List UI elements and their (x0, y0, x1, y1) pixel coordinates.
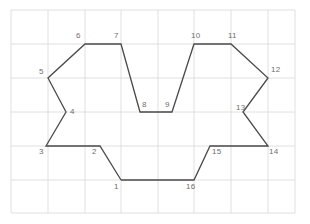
vertex-label-9: 9 (165, 101, 170, 109)
vertex-label-15: 15 (212, 148, 221, 156)
vertex-label-2: 2 (92, 148, 97, 156)
polygon-figure-svg (0, 0, 310, 224)
vertex-label-16: 16 (186, 183, 195, 191)
vertex-label-1: 1 (114, 183, 119, 191)
vertex-label-11: 11 (228, 32, 237, 40)
vertex-label-10: 10 (191, 32, 200, 40)
vertex-label-14: 14 (269, 148, 278, 156)
vertex-label-12: 12 (271, 66, 280, 74)
figure-canvas: 12345678910111213141516 (0, 0, 310, 224)
vertex-label-6: 6 (76, 32, 81, 40)
vertex-label-8: 8 (142, 101, 147, 109)
vertex-label-13: 13 (236, 104, 245, 112)
vertex-label-4: 4 (70, 108, 75, 116)
vertex-label-5: 5 (39, 68, 44, 76)
vertex-label-7: 7 (114, 32, 119, 40)
vertex-label-3: 3 (39, 148, 44, 156)
